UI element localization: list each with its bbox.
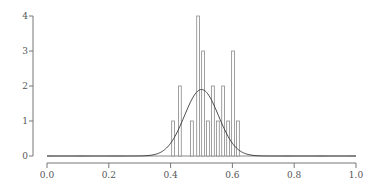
- histogram-bar: [216, 121, 219, 156]
- x-tick-label: 0.8: [287, 170, 302, 180]
- histogram-bars: [172, 16, 240, 156]
- histogram-bar: [222, 86, 225, 156]
- histogram-bar: [178, 86, 181, 156]
- y-tick-label: 2: [22, 81, 28, 91]
- x-tick-label: 1.0: [349, 170, 364, 180]
- histogram-bar: [197, 16, 200, 156]
- x-tick-label: 0.0: [40, 170, 55, 180]
- x-tick-label: 0.4: [163, 170, 178, 180]
- histogram-bar: [207, 121, 210, 156]
- y-tick-label: 0: [22, 151, 28, 161]
- y-axis: 01234: [22, 11, 33, 161]
- x-tick-label: 0.2: [102, 170, 116, 180]
- histogram-chart: 01234 0.00.20.40.60.81.0: [0, 0, 384, 189]
- x-axis: 0.00.20.40.60.81.0: [40, 163, 364, 180]
- histogram-bar: [232, 51, 235, 156]
- histogram-bar: [212, 86, 215, 156]
- histogram-bar: [202, 51, 205, 156]
- y-tick-label: 3: [22, 46, 28, 56]
- y-tick-label: 1: [22, 116, 28, 126]
- y-tick-label: 4: [22, 11, 28, 21]
- histogram-bar: [191, 121, 194, 156]
- histogram-bar: [237, 121, 240, 156]
- x-tick-label: 0.6: [225, 170, 240, 180]
